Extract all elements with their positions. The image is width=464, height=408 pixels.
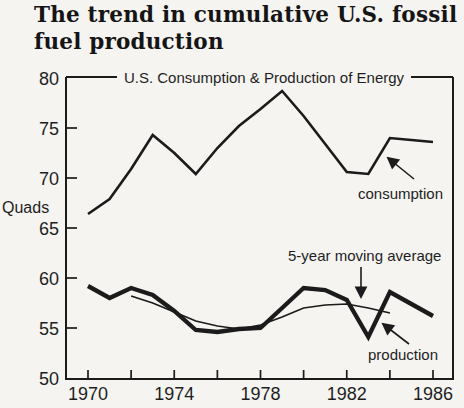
inner-chart-title: U.S. Consumption & Production of Energy bbox=[124, 69, 405, 86]
scanned-chart-page: The trend in cumulative U.S. fossilfuel … bbox=[0, 0, 464, 408]
moving-average-label: 5-year moving average bbox=[288, 247, 441, 264]
y-tick-label: 80 bbox=[39, 69, 59, 89]
y-tick-label: 70 bbox=[39, 169, 59, 189]
production-label: production bbox=[368, 346, 438, 363]
y-axis-label: Quads bbox=[2, 199, 49, 216]
series-line-5-year-moving-average bbox=[131, 296, 390, 329]
y-tick-label: 55 bbox=[39, 319, 59, 339]
y-tick-label: 60 bbox=[39, 269, 59, 289]
y-tick-label: 50 bbox=[39, 369, 59, 389]
x-tick-label: 1974 bbox=[154, 384, 194, 404]
production-arrow bbox=[383, 324, 409, 344]
x-tick-label: 1978 bbox=[240, 384, 280, 404]
x-tick-label: 1986 bbox=[413, 384, 453, 404]
consumption-arrow bbox=[388, 158, 414, 179]
y-tick-label: 75 bbox=[39, 119, 59, 139]
x-tick-label: 1970 bbox=[68, 384, 108, 404]
energy-trend-chart: 5055606570758019701974197819821986 U.S. … bbox=[0, 0, 464, 408]
y-tick-label: 65 bbox=[39, 219, 59, 239]
data-series-lines bbox=[88, 91, 433, 337]
consumption-label: consumption bbox=[358, 185, 443, 202]
x-tick-label: 1982 bbox=[327, 384, 367, 404]
